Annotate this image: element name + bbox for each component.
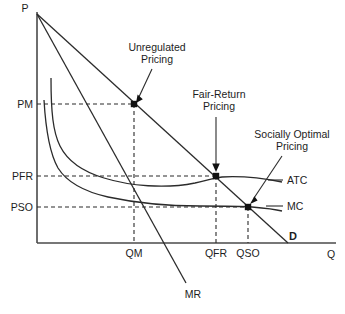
fair-return-pricing-line2: Pricing [203,100,235,112]
annotation-fair-return-pricing: Fair-Return Pricing [192,88,245,172]
fair-return-point-marker [213,173,219,179]
unregulated-pricing-line1: Unregulated [128,41,185,53]
demand-curve-label: D [289,230,297,242]
y-axis-label: P [21,2,28,14]
y-tick-label-pso: PSO [11,201,33,213]
natural-monopoly-diagram: P Q PM PFR PSO QM QFR [0,0,345,314]
diagram-canvas: P Q PM PFR PSO QM QFR [0,0,345,314]
socially-optimal-point-marker [245,204,251,210]
x-tick-label-qm: QM [126,247,143,259]
y-tick-label-pm: PM [17,98,33,110]
socially-optimal-pricing-arrow-shaft [254,156,282,198]
marginal-cost-curve [44,100,282,211]
socially-optimal-pricing-arrow-head [250,196,258,204]
x-tick-label-qso: QSO [236,247,259,259]
marginal-cost-label: MC [287,200,304,212]
socially-optimal-pricing-line2: Pricing [276,140,308,152]
fair-return-pricing-arrow-head [212,164,220,172]
fair-return-pricing-line1: Fair-Return [192,88,245,100]
annotation-unregulated-pricing: Unregulated Pricing [128,41,185,103]
average-total-cost-label: ATC [287,174,308,186]
y-tick-label-pfr: PFR [12,170,33,182]
unregulated-pricing-arrow-shaft [138,69,152,99]
unregulated-pricing-line2: Pricing [141,53,173,65]
x-axis-label: Q [327,248,335,260]
socially-optimal-pricing-line1: Socially Optimal [254,128,329,140]
x-tick-label-qfr: QFR [205,247,228,259]
marginal-revenue-label: MR [185,288,202,300]
annotation-socially-optimal-pricing: Socially Optimal Pricing [250,128,330,204]
